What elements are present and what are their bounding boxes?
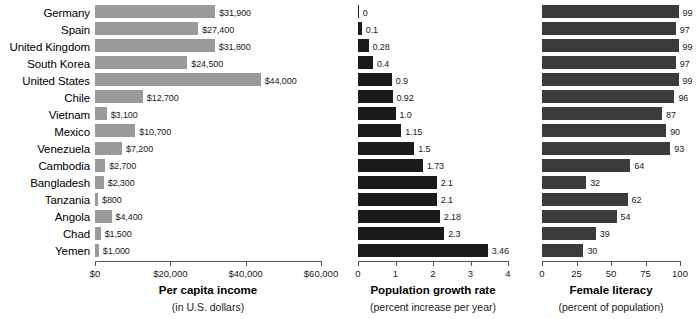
bar-rows-female-literacy: 999799979996879093643262543930	[542, 4, 680, 260]
axis-title-population-growth-rate: Population growth rate	[323, 284, 543, 296]
bar	[95, 73, 261, 86]
bar-row: 90	[542, 123, 680, 140]
bar	[542, 142, 670, 155]
bar	[95, 193, 98, 206]
bar-value-label: $27,400	[202, 25, 234, 35]
bar	[358, 142, 414, 155]
bar-row: 32	[542, 175, 680, 192]
bar-row: 0.1	[358, 21, 508, 38]
bar	[358, 73, 392, 86]
bar-value-label: $3,100	[111, 110, 138, 120]
axis-tick	[358, 261, 359, 266]
bar	[95, 244, 99, 257]
bar	[95, 124, 135, 137]
category-label-venezuela: Venezuela	[37, 143, 90, 155]
bar-row: 0.4	[358, 55, 508, 72]
bar-value-label: $2,700	[109, 161, 136, 171]
bar-value-label: 99	[683, 8, 693, 18]
bar-row: Mexico$10,700	[95, 123, 321, 140]
bar	[542, 22, 676, 35]
bar	[542, 176, 586, 189]
axis-tick-label: 4	[505, 268, 510, 279]
bar	[95, 159, 105, 172]
bar-row: 2.3	[358, 226, 508, 243]
bar-value-label: 96	[678, 93, 688, 103]
figure-three-bar-charts: Germany$31,900Spain$27,400United Kingdom…	[0, 0, 699, 319]
bar-value-label: $7,200	[126, 144, 153, 154]
bar	[95, 22, 198, 35]
bar-value-label: $2,300	[108, 178, 135, 188]
bar	[542, 56, 676, 69]
bar	[542, 124, 666, 137]
bar-value-label: 0.9	[396, 76, 408, 86]
bar	[95, 227, 101, 240]
bar-value-label: $800	[102, 195, 122, 205]
category-label-yemen: Yemen	[55, 245, 90, 257]
bar	[358, 107, 396, 120]
bar-value-label: 0.4	[377, 59, 389, 69]
bar	[95, 5, 215, 18]
bar	[542, 39, 679, 52]
bar-row: Angola$4,400	[95, 209, 321, 226]
axis-tick-label: $0	[90, 268, 101, 279]
bar	[358, 124, 401, 137]
axis-tick	[508, 261, 509, 266]
bar-value-label: 99	[683, 42, 693, 52]
axis-tick-label: 3	[468, 268, 473, 279]
bar-row: United Kingdom$31,800	[95, 38, 321, 55]
bar-value-label: 0	[363, 8, 368, 18]
bar-row: Bangladesh$2,300	[95, 175, 321, 192]
axis-tick-label: $40,000	[228, 268, 262, 279]
bar-value-label: 0.1	[366, 25, 378, 35]
bar-row: 99	[542, 72, 680, 89]
bar	[358, 56, 373, 69]
bar	[358, 5, 359, 18]
bar	[542, 73, 679, 86]
bar-value-label: 3.46	[492, 246, 509, 256]
bar-value-label: 1.0	[400, 110, 412, 120]
bar-value-label: 2.1	[441, 178, 453, 188]
axis-tick-label: 100	[672, 268, 688, 279]
chart-panel-female-literacy: 999799979996879093643262543930 025507510…	[542, 0, 680, 319]
axis-tick	[646, 261, 647, 266]
bar-value-label: 2.1	[441, 195, 453, 205]
plot-area-per-capita-income: Germany$31,900Spain$27,400United Kingdom…	[95, 0, 321, 262]
axis-subtitle-population-growth-rate: (percent increase per year)	[323, 301, 543, 313]
bar	[542, 5, 679, 18]
bar-value-label: 54	[621, 212, 631, 222]
bar-value-label: $31,800	[219, 42, 251, 52]
bar-row: 62	[542, 192, 680, 209]
bar	[542, 159, 630, 172]
bar-value-label: $4,400	[116, 212, 143, 222]
category-label-south-korea: South Korea	[27, 58, 90, 70]
bar-value-label: $10,700	[139, 127, 171, 137]
bar-value-label: 1.5	[418, 144, 430, 154]
category-label-spain: Spain	[61, 24, 90, 36]
axis-tick-label: 2	[430, 268, 435, 279]
bar-row: 64	[542, 158, 680, 175]
bar-row: Cambodia$2,700	[95, 158, 321, 175]
bar-value-label: $24,500	[191, 59, 223, 69]
bar-row: Vietnam$3,100	[95, 106, 321, 123]
bar-value-label: 87	[666, 110, 676, 120]
axis-tick	[680, 261, 681, 266]
category-label-united-kingdom: United Kingdom	[10, 41, 90, 53]
axis-tick-label: 1	[393, 268, 398, 279]
axis-tick-label: 25	[571, 268, 582, 279]
bar-row: Venezuela$7,200	[95, 141, 321, 158]
bar-row: 97	[542, 55, 680, 72]
bar-value-label: 39	[600, 229, 610, 239]
bar-row: 0.92	[358, 89, 508, 106]
bar-rows-population-growth-rate: 00.10.280.40.90.921.01.151.51.732.12.12.…	[358, 4, 508, 260]
bar-row: 1.73	[358, 158, 508, 175]
axis-tick	[433, 261, 434, 266]
bar-row: Tanzania$800	[95, 192, 321, 209]
bar-value-label: 1.15	[405, 127, 422, 137]
bar-row: United States$44,000	[95, 72, 321, 89]
plot-area-female-literacy: 999799979996879093643262543930	[542, 0, 680, 262]
category-label-chad: Chad	[63, 228, 90, 240]
axis-tick-label: 75	[640, 268, 651, 279]
bar-row: 97	[542, 21, 680, 38]
bar	[95, 39, 215, 52]
bar	[542, 193, 628, 206]
